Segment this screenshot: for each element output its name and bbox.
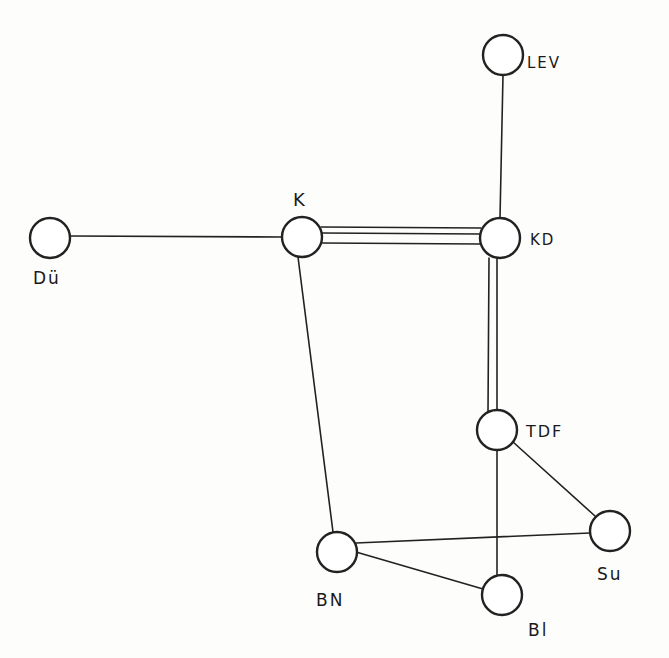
label-bn: BN (316, 590, 344, 610)
label-bl: Bl (528, 620, 548, 640)
edges-layer (70, 75, 595, 589)
node-tdf[interactable] (477, 410, 517, 450)
node-k[interactable] (282, 217, 322, 257)
edge-du-k (70, 236, 282, 237)
network-diagram: LEV Dü K KD TDF Su BN Bl (0, 0, 669, 658)
label-su: Su (597, 564, 623, 584)
label-du: Dü (33, 268, 61, 288)
node-su[interactable] (590, 511, 630, 551)
edge-k-bn (298, 257, 333, 532)
edge-lev-kd (500, 75, 503, 218)
edge-bn-su (356, 533, 590, 543)
node-bl[interactable] (482, 575, 522, 615)
edge-kd-tdf-1 (488, 258, 489, 412)
node-kd[interactable] (480, 218, 520, 258)
edge-tdf-su (513, 442, 595, 516)
label-kd: KD (530, 231, 555, 249)
node-du[interactable] (30, 218, 70, 258)
edge-k-kd-1 (321, 227, 481, 228)
node-lev[interactable] (483, 35, 523, 75)
edge-k-kd-3 (321, 243, 480, 244)
node-bn[interactable] (317, 532, 357, 572)
edge-bn-bl (356, 552, 483, 589)
nodes-layer (30, 35, 630, 615)
label-k: K (293, 189, 307, 210)
edge-k-kd-2 (322, 233, 480, 234)
label-tdf: TDF (525, 422, 563, 441)
label-lev: LEV (527, 54, 561, 72)
